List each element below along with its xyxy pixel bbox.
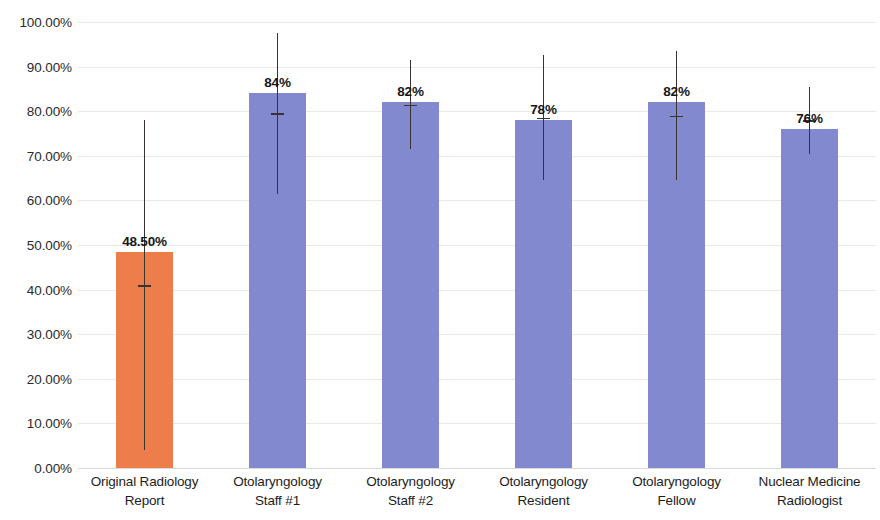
bar-value-label: 48.50%: [122, 234, 167, 249]
x-axis-tick-label: OtolaryngologyStaff #2: [344, 472, 477, 510]
y-axis-tick-label: 50.00%: [0, 238, 72, 253]
y-axis-tick-label: 0.00%: [0, 461, 72, 476]
gridline: [78, 423, 876, 424]
y-axis-tick-label: 30.00%: [0, 327, 72, 342]
gridline: [78, 22, 876, 23]
y-axis-tick-label: 20.00%: [0, 371, 72, 386]
plot-area: 48.50%84%82%78%82%76%: [78, 22, 876, 468]
y-axis-tick-label: 80.00%: [0, 104, 72, 119]
bar-group[interactable]: 82%: [382, 22, 439, 468]
x-axis-tick-label-line: Otolaryngology: [344, 472, 477, 491]
bar[interactable]: [382, 102, 439, 468]
error-bar-cap: [404, 105, 417, 107]
x-axis-tick-label-line: Report: [78, 491, 211, 510]
x-axis-tick-label-line: Nuclear Medicine: [743, 472, 876, 491]
x-axis-tick-label: Nuclear MedicineRadiologist: [743, 472, 876, 510]
bar-group[interactable]: 82%: [648, 22, 705, 468]
x-axis-tick-label-line: Fellow: [610, 491, 743, 510]
gridline: [78, 67, 876, 68]
x-axis-tick-label: Original RadiologyReport: [78, 472, 211, 510]
x-axis-tick-label: OtolaryngologyResident: [477, 472, 610, 510]
y-axis-tick-label: 60.00%: [0, 193, 72, 208]
bar-group[interactable]: 76%: [781, 22, 838, 468]
gridline: [78, 290, 876, 291]
x-axis-tick-label: OtolaryngologyFellow: [610, 472, 743, 510]
x-axis-tick-label-line: Staff #1: [211, 491, 344, 510]
bar-value-label: 82%: [663, 84, 689, 99]
y-axis-tick-label: 10.00%: [0, 416, 72, 431]
y-axis: 100.00%90.00%80.00%70.00%60.00%50.00%40.…: [0, 0, 72, 520]
gridline: [78, 200, 876, 201]
y-axis-tick-label: 100.00%: [0, 15, 72, 30]
x-axis-tick-label-line: Otolaryngology: [610, 472, 743, 491]
y-axis-tick-label: 70.00%: [0, 148, 72, 163]
x-axis-tick-label-line: Original Radiology: [78, 472, 211, 491]
bar-value-label: 84%: [264, 75, 290, 90]
gridline: [78, 379, 876, 380]
x-axis-tick-label-line: Otolaryngology: [477, 472, 610, 491]
x-axis-tick-label: OtolaryngologyStaff #1: [211, 472, 344, 510]
y-axis-tick-label: 90.00%: [0, 59, 72, 74]
x-axis-tick-label-line: Otolaryngology: [211, 472, 344, 491]
gridline: [78, 468, 876, 469]
y-axis-tick-label: 40.00%: [0, 282, 72, 297]
bar-group[interactable]: 78%: [515, 22, 572, 468]
bar-group[interactable]: 48.50%: [116, 22, 173, 468]
error-bar-cap: [138, 285, 151, 287]
gridline: [78, 245, 876, 246]
x-axis-tick-label-line: Radiologist: [743, 491, 876, 510]
bar-group[interactable]: 84%: [249, 22, 306, 468]
bar-chart: 100.00%90.00%80.00%70.00%60.00%50.00%40.…: [0, 0, 880, 520]
error-bar-cap: [537, 118, 550, 120]
bar-value-label: 76%: [796, 111, 822, 126]
gridline: [78, 111, 876, 112]
bar-value-label: 78%: [530, 102, 556, 117]
x-axis: Original RadiologyReportOtolaryngologySt…: [78, 472, 876, 520]
error-bar-cap: [271, 113, 284, 115]
x-axis-tick-label-line: Staff #2: [344, 491, 477, 510]
bar[interactable]: [781, 129, 838, 468]
x-axis-tick-label-line: Resident: [477, 491, 610, 510]
error-bar-cap: [670, 116, 683, 118]
gridline: [78, 334, 876, 335]
gridline: [78, 156, 876, 157]
bar-value-label: 82%: [397, 84, 423, 99]
